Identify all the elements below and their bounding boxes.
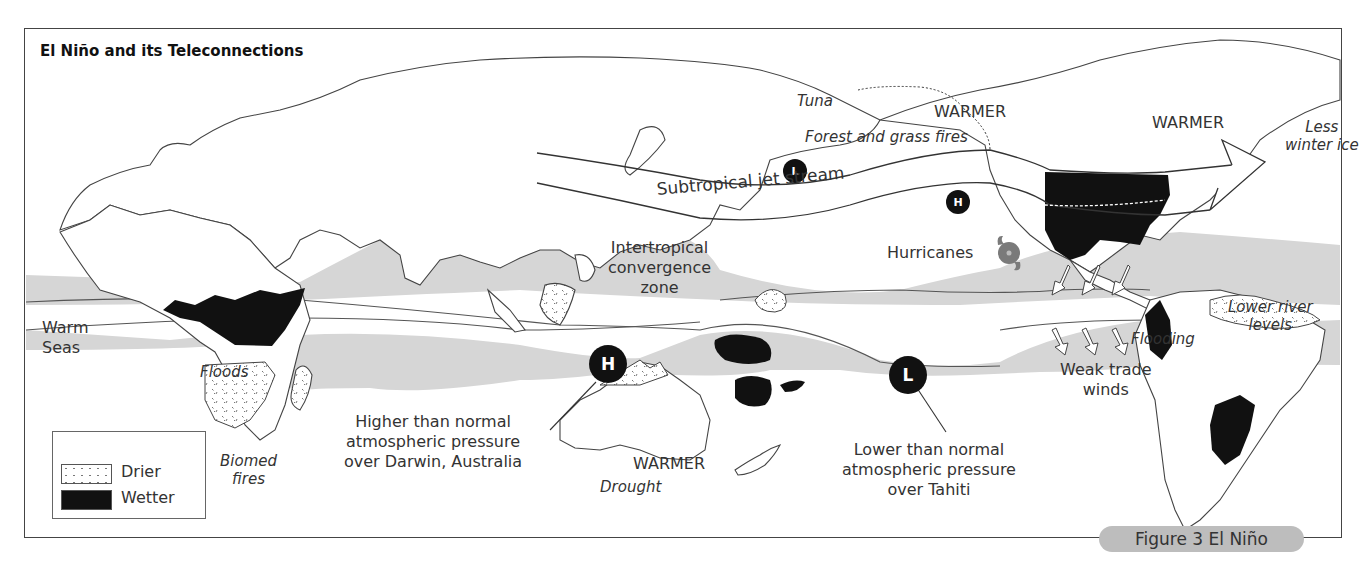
warm-seas-label: Warm Seas	[42, 318, 88, 358]
biomed-fires-label: Biomed fires	[220, 452, 277, 488]
lower-river-levels-label: Lower river levels	[1228, 298, 1313, 334]
less-winter-ice-label: Less winter ice	[1285, 118, 1359, 154]
biomed-fires-line-1: Biomed	[220, 452, 277, 470]
darwin-note-line-3: over Darwin, Australia	[344, 452, 522, 472]
warmer-canada-label: WARMER	[1152, 114, 1224, 132]
warm-seas-line-1: Warm	[42, 318, 88, 338]
map-title: El Niño and its Teleconnections	[40, 42, 303, 60]
biomed-fires-line-2: fires	[220, 470, 277, 488]
figure-caption: Figure 3 El Niño	[1099, 526, 1304, 552]
warmer-north-pacific-label: WARMER	[934, 103, 1006, 121]
less-winter-ice-line-1: Less	[1285, 118, 1359, 136]
warmer-australia-label: WARMER	[633, 455, 705, 473]
darwin-pressure-note: Higher than normal atmospheric pressure …	[344, 412, 522, 472]
map-legend: Drier Wetter	[52, 431, 206, 519]
tuna-label: Tuna	[797, 92, 833, 110]
tahiti-low-pressure-marker: L	[889, 356, 927, 394]
tahiti-note-line-1: Lower than normal	[842, 440, 1016, 460]
weak-trade-winds-line-2: winds	[1060, 380, 1152, 400]
drought-label: Drought	[600, 478, 661, 496]
wetter-swatch	[61, 490, 112, 510]
floods-label: Floods	[200, 363, 249, 381]
hurricanes-label: Hurricanes	[887, 244, 973, 262]
warm-seas-line-2: Seas	[42, 338, 88, 358]
lower-river-levels-line-1: Lower river	[1228, 298, 1313, 316]
weak-trade-winds-label: Weak trade winds	[1060, 360, 1152, 400]
forest-fires-label: Forest and grass fires	[805, 128, 968, 146]
lower-river-levels-line-2: levels	[1228, 316, 1313, 334]
less-winter-ice-line-2: winter ice	[1285, 136, 1359, 154]
legend-drier-label: Drier	[121, 462, 161, 481]
tahiti-note-line-2: atmospheric pressure	[842, 460, 1016, 480]
legend-wetter-label: Wetter	[121, 488, 175, 507]
darwin-note-line-2: atmospheric pressure	[344, 432, 522, 452]
itcz-line-3: zone	[608, 278, 711, 298]
itcz-label: Intertropical convergence zone	[608, 238, 711, 298]
darwin-high-pressure-marker: H	[589, 345, 627, 383]
darwin-note-line-1: Higher than normal	[344, 412, 522, 432]
itcz-line-2: convergence	[608, 258, 711, 278]
drier-swatch	[61, 464, 112, 484]
itcz-line-1: Intertropical	[608, 238, 711, 258]
weak-trade-winds-line-1: Weak trade	[1060, 360, 1152, 380]
north-pacific-high-marker: H	[946, 190, 970, 214]
tahiti-note-line-3: over Tahiti	[842, 480, 1016, 500]
flooding-label: Flooding	[1131, 330, 1195, 348]
tahiti-pressure-note: Lower than normal atmospheric pressure o…	[842, 440, 1016, 500]
